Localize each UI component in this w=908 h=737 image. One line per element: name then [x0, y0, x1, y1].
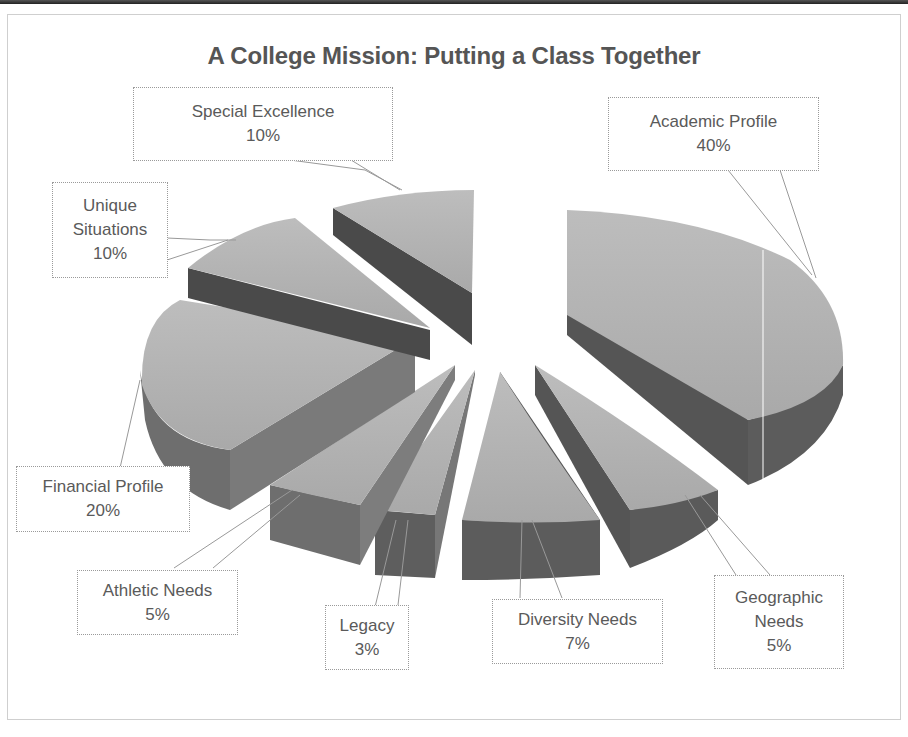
label-diversity-needs: Diversity Needs 7% — [492, 599, 663, 664]
label-academic-profile: Academic Profile 40% — [608, 97, 819, 171]
label-legacy: Legacy 3% — [325, 605, 409, 670]
label-athletic-needs: Athletic Needs 5% — [77, 570, 238, 635]
label-special-excellence: Special Excellence 10% — [133, 87, 393, 161]
label-geographic-needs: Geographic Needs 5% — [714, 575, 844, 669]
label-unique-situations: Unique Situations 10% — [52, 182, 168, 278]
label-financial-profile: Financial Profile 20% — [16, 466, 190, 532]
